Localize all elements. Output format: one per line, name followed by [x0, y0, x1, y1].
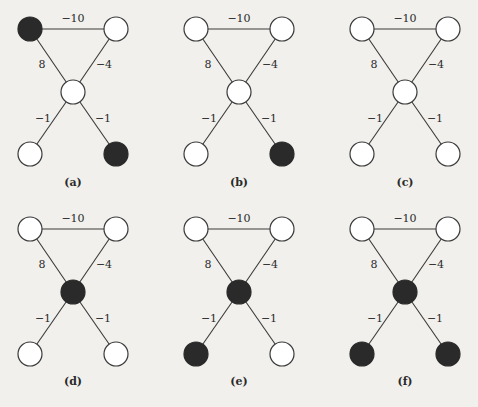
panel-f: −108−4−1−1(f) [350, 212, 460, 388]
panel-b: −108−4−1−1(b) [184, 12, 294, 189]
panel-label: (a) [64, 176, 82, 189]
edge-weight-label: −1 [35, 112, 51, 125]
edge-weight-label: 8 [371, 258, 378, 271]
edge-weight-label: −1 [95, 112, 111, 125]
edge-weight-label: −1 [35, 312, 51, 325]
edge-weight-label: −10 [227, 12, 250, 25]
edge-weight-label: 8 [39, 258, 46, 271]
edge-weight-label: −1 [427, 112, 443, 125]
node-bottom-left-filled [184, 342, 208, 366]
node-center [227, 80, 251, 104]
node-bottom-left [18, 142, 42, 166]
node-bottom-right-filled [104, 142, 128, 166]
node-bottom-right-filled [436, 342, 460, 366]
edge-weight-label: −1 [367, 112, 383, 125]
figure-canvas: −108−4−1−1(a)−108−4−1−1(b)−108−4−1−1(c)−… [0, 0, 478, 407]
node-bottom-left [184, 142, 208, 166]
node-top-right [436, 217, 460, 241]
edge-weight-label: −4 [96, 258, 112, 271]
node-top-right [270, 217, 294, 241]
edge-weight-label: −4 [428, 58, 444, 71]
edge-weight-label: −1 [261, 112, 277, 125]
figure-caption [0, 398, 478, 407]
node-top-right [104, 217, 128, 241]
edge-weight-label: −10 [393, 212, 416, 225]
edge-weight-label: −1 [201, 312, 217, 325]
node-top-left [184, 217, 208, 241]
edge-weight-label: −10 [227, 212, 250, 225]
edge-weight-label: 8 [205, 258, 212, 271]
node-bottom-right [436, 142, 460, 166]
panel-d: −108−4−1−1(d) [18, 212, 128, 388]
node-center-filled [61, 280, 85, 304]
edge-weight-label: −1 [95, 312, 111, 325]
edge-weight-label: −10 [61, 212, 84, 225]
panel-label: (e) [230, 375, 247, 388]
node-center-filled [393, 280, 417, 304]
node-bottom-left [18, 342, 42, 366]
graph-figure: −108−4−1−1(a)−108−4−1−1(b)−108−4−1−1(c)−… [0, 0, 478, 407]
node-top-left [350, 17, 374, 41]
edge-weight-label: −1 [261, 312, 277, 325]
node-top-left [18, 217, 42, 241]
node-bottom-right [104, 342, 128, 366]
edge-weight-label: −4 [262, 58, 278, 71]
panel-label: (f) [397, 375, 412, 388]
node-bottom-right-filled [270, 142, 294, 166]
edge-weight-label: −4 [428, 258, 444, 271]
edge-weight-label: 8 [371, 58, 378, 71]
node-top-right [270, 17, 294, 41]
edge-weight-label: −1 [201, 112, 217, 125]
panel-label: (b) [230, 176, 248, 189]
panel-c: −108−4−1−1(c) [350, 12, 460, 189]
panel-a: −108−4−1−1(a) [18, 12, 128, 189]
node-bottom-left-filled [350, 342, 374, 366]
node-top-left [184, 17, 208, 41]
edge-weight-label: −10 [61, 12, 84, 25]
panel-label: (c) [396, 176, 413, 189]
node-bottom-left [350, 142, 374, 166]
node-top-left [350, 217, 374, 241]
edge-weight-label: −4 [96, 58, 112, 71]
node-center [61, 80, 85, 104]
node-top-right [104, 17, 128, 41]
edge-weight-label: −1 [367, 312, 383, 325]
node-top-right [436, 17, 460, 41]
edge-weight-label: −10 [393, 12, 416, 25]
edge-weight-label: −1 [427, 312, 443, 325]
panel-label: (d) [64, 375, 82, 388]
panel-e: −108−4−1−1(e) [184, 212, 294, 388]
node-center-filled [227, 280, 251, 304]
edge-weight-label: 8 [205, 58, 212, 71]
node-center [393, 80, 417, 104]
node-top-left-filled [18, 17, 42, 41]
edge-weight-label: 8 [39, 58, 46, 71]
edge-weight-label: −4 [262, 258, 278, 271]
node-bottom-right [270, 342, 294, 366]
